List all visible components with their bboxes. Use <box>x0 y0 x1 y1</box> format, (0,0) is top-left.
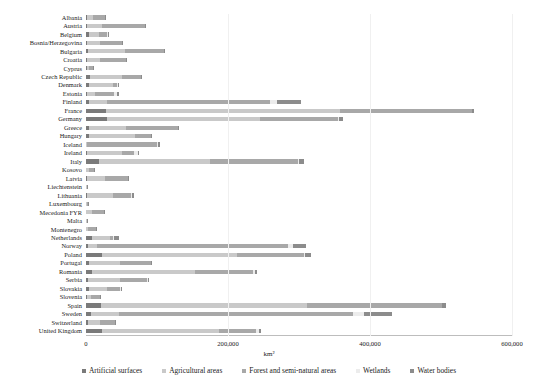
legend-swatch-icon <box>356 369 360 373</box>
stacked-bar <box>86 320 116 324</box>
category-label: Montenegro <box>51 226 82 233</box>
gridline <box>512 14 513 336</box>
category-label: United Kingdom <box>39 327 82 334</box>
bar-segment <box>101 303 307 307</box>
bar-segment <box>102 24 145 28</box>
bar-segment <box>100 320 115 324</box>
x-axis-tick-label: 600,000 <box>501 340 522 347</box>
stacked-bar <box>86 75 142 79</box>
bar-segment <box>158 142 160 146</box>
bar-segment <box>120 261 151 265</box>
bar-segment <box>178 126 179 130</box>
stacked-bar <box>86 15 106 19</box>
legend-swatch-icon <box>242 369 246 373</box>
bar-segment <box>97 244 289 248</box>
legend-item: Artificial surfaces <box>82 366 142 375</box>
category-label: Poland <box>64 251 82 258</box>
legend-swatch-icon <box>410 369 414 373</box>
category-label: Spain <box>67 302 82 309</box>
bar-segment <box>88 227 95 231</box>
land-cover-stacked-bar-chart: AlbaniaAustriaBelgiumBosnia/HerzegovinaB… <box>0 0 538 391</box>
bar-segment <box>99 159 209 163</box>
bar-segment <box>86 109 106 113</box>
category-label: Norway <box>61 242 82 249</box>
bar-segment <box>113 193 131 197</box>
stacked-bar <box>86 236 119 240</box>
bar-segment <box>364 312 392 316</box>
legend-label: Agricultural areas <box>169 366 222 375</box>
stacked-bar <box>86 210 104 214</box>
x-axis-tick-label: 400,000 <box>359 340 380 347</box>
bar-segment <box>164 49 165 53</box>
bar-segment <box>107 100 270 104</box>
bar-segment <box>102 253 237 257</box>
bar-segment <box>105 176 128 180</box>
stacked-bar <box>86 278 148 282</box>
bar-segment <box>89 126 126 130</box>
bar-segment <box>299 159 304 163</box>
x-axis-line <box>86 335 512 336</box>
category-label: Iceland <box>63 141 82 148</box>
bar-segment <box>210 159 299 163</box>
category-label: Ireland <box>64 149 82 156</box>
category-label: Czech Republic <box>41 73 82 80</box>
legend-swatch-icon <box>162 369 166 373</box>
gridline <box>228 14 229 336</box>
category-label: Portugal <box>60 259 82 266</box>
stacked-bar <box>86 227 96 231</box>
bar-segment <box>87 58 100 62</box>
stacked-bar <box>86 303 446 307</box>
category-label: Sweden <box>62 310 82 317</box>
stacked-bar <box>86 41 123 45</box>
stacked-bar <box>86 58 126 62</box>
stacked-bar <box>86 287 121 291</box>
bar-segment <box>255 270 257 274</box>
bar-segment <box>118 83 119 87</box>
bar-segment <box>472 109 474 113</box>
stacked-bar <box>86 202 89 206</box>
bar-segment <box>88 244 97 248</box>
bar-segment <box>87 142 157 146</box>
bar-segment <box>100 41 122 45</box>
bar-segment <box>122 151 134 155</box>
bar-segment <box>105 15 106 19</box>
stacked-bar <box>86 49 165 53</box>
legend-label: Artificial surfaces <box>89 366 142 375</box>
bar-segment <box>88 49 125 53</box>
bar-segment <box>119 312 353 316</box>
bar-segment <box>88 278 120 282</box>
gridline <box>370 14 371 336</box>
legend-item: Water bodies <box>410 366 456 375</box>
bar-segment <box>87 176 105 180</box>
legend-item: Wetlands <box>356 366 390 375</box>
bar-segment <box>353 312 364 316</box>
stacked-bar <box>86 134 152 138</box>
bar-segment <box>219 329 256 333</box>
bar-segment <box>86 303 101 307</box>
bar-segment <box>259 329 261 333</box>
bar-segment <box>87 24 102 28</box>
bar-segment <box>91 295 100 299</box>
bar-segment <box>87 41 100 45</box>
category-label: Hungary <box>60 132 82 139</box>
category-label: Lithuania <box>58 192 83 199</box>
category-label: Austria <box>63 22 82 29</box>
category-label: Bulgaria <box>60 48 82 55</box>
bar-segment <box>90 75 122 79</box>
legend-label: Water bodies <box>417 366 456 375</box>
stacked-bar <box>86 151 138 155</box>
category-label: Italy <box>70 158 82 165</box>
legend-item: Forest and semi-natural areas <box>242 366 336 375</box>
stacked-bar <box>86 109 474 113</box>
bar-segment <box>86 329 102 333</box>
bar-segment <box>106 109 340 113</box>
stacked-bar <box>86 176 129 180</box>
bar-segment <box>107 287 120 291</box>
plot-area <box>86 14 512 336</box>
stacked-bar <box>86 83 118 87</box>
category-label: Finland <box>62 98 82 105</box>
bar-segment <box>122 75 141 79</box>
bar-segment <box>89 287 107 291</box>
stacked-bar <box>86 193 134 197</box>
category-label: Netherlands <box>51 234 82 241</box>
